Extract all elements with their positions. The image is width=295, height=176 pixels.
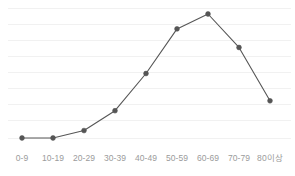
data-point xyxy=(237,45,242,50)
x-tick-label: 40-49 xyxy=(135,152,157,164)
data-point xyxy=(175,26,180,31)
data-point xyxy=(268,98,273,103)
x-tick-label: 20-29 xyxy=(73,152,95,164)
data-point xyxy=(82,128,87,133)
data-point xyxy=(20,136,25,141)
x-axis-labels: 0-910-1920-2930-3940-4950-5960-6970-7980… xyxy=(0,150,295,176)
plot-area xyxy=(0,0,295,150)
data-point xyxy=(144,71,149,76)
x-tick-label: 10-19 xyxy=(42,152,64,164)
x-tick-label: 30-39 xyxy=(104,152,126,164)
x-tick-label: 70-79 xyxy=(228,152,250,164)
data-point xyxy=(51,136,56,141)
data-series-line xyxy=(0,0,295,150)
x-tick-label: 0-9 xyxy=(16,152,29,164)
x-tick-label: 60-69 xyxy=(197,152,219,164)
data-point xyxy=(206,12,211,17)
line-chart: 0-910-1920-2930-3940-4950-5960-6970-7980… xyxy=(0,0,295,176)
data-point xyxy=(113,108,118,113)
series-markers xyxy=(20,12,273,141)
x-tick-label: 80이상 xyxy=(257,152,283,164)
x-tick-label: 50-59 xyxy=(166,152,188,164)
